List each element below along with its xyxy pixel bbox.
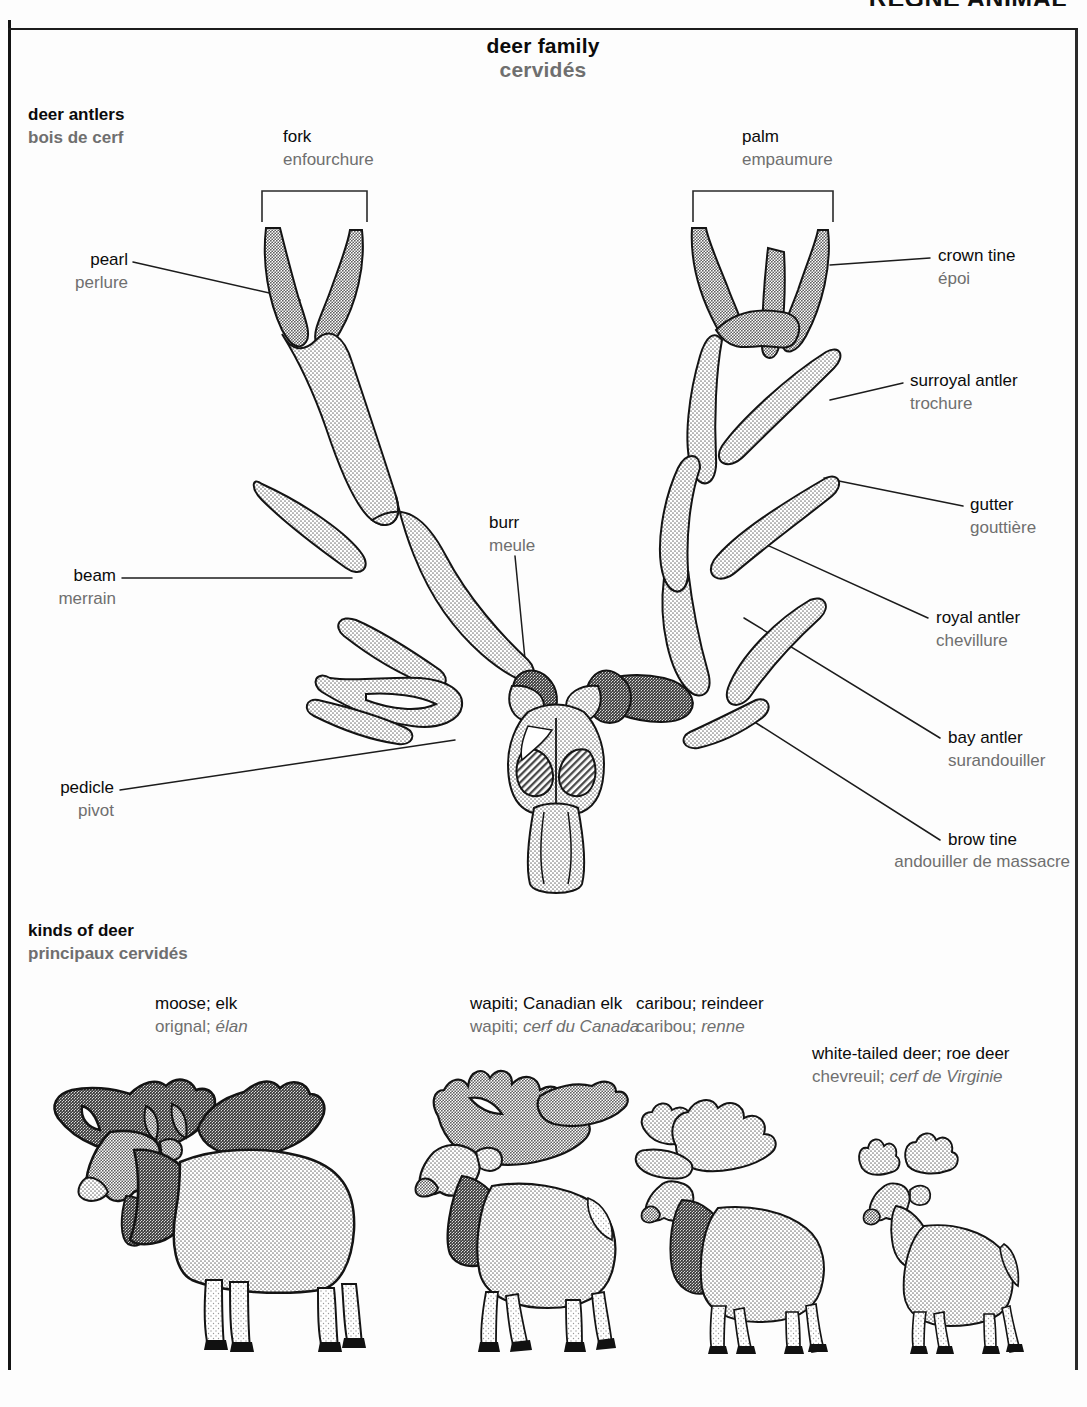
species-caribou-fr: caribou; renne (636, 1016, 764, 1039)
species-moose-fr-italic: élan (215, 1017, 247, 1036)
section-antlers-fr: bois de cerf (28, 127, 124, 150)
label-burr-en: burr (489, 512, 535, 535)
species-whitetailed-label: white-tailed deer; roe deer chevreuil; c… (812, 1043, 1010, 1088)
label-gutter-en: gutter (970, 494, 1036, 517)
running-head: RÈGNE ANIMAL (0, 0, 1079, 6)
label-palm-en: palm (742, 126, 833, 149)
label-surroyal-antler-en: surroyal antler (910, 370, 1018, 393)
species-whitetailed-fr-italic: cerf de Virginie (889, 1067, 1002, 1086)
page-title-fr: cervidés (8, 58, 1078, 82)
label-crown-tine-fr: époi (938, 268, 1015, 291)
label-burr: burr meule (489, 512, 535, 557)
label-surroyal-antler-fr: trochure (910, 393, 1018, 416)
species-whitetailed-fr-plain: chevreuil; (812, 1067, 889, 1086)
label-bay-antler-fr: surandouiller (948, 750, 1045, 773)
species-moose-fr-plain: orignal; (155, 1017, 215, 1036)
label-bay-antler: bay antler surandouiller (948, 727, 1045, 772)
label-surroyal-antler: surroyal antler trochure (910, 370, 1018, 415)
label-fork-fr: enfourchure (283, 149, 374, 172)
label-brow-tine-fr: andouiller de massacre (760, 851, 1070, 874)
label-beam: beam merrain (0, 565, 116, 610)
species-wapiti-fr-italic: cerf du Canada (523, 1017, 639, 1036)
label-pearl: pearl perlure (0, 249, 128, 294)
page-title: deer family cervidés (8, 34, 1078, 82)
species-whitetailed-en: white-tailed deer; roe deer (812, 1043, 1010, 1066)
label-brow-tine: brow tine (948, 829, 1017, 852)
frame-border-right (1075, 28, 1078, 1370)
label-palm: palm empaumure (742, 126, 833, 171)
label-crown-tine: crown tine époi (938, 245, 1015, 290)
label-fork: fork enfourchure (283, 126, 374, 171)
species-moose-en: moose; elk (155, 993, 248, 1016)
label-royal-antler-fr: chevillure (936, 630, 1020, 653)
section-kinds-fr: principaux cervidés (28, 943, 188, 966)
page-frame: deer family cervidés (8, 20, 1078, 1370)
label-beam-en: beam (0, 565, 116, 588)
label-gutter-fr: gouttière (970, 517, 1036, 540)
label-bay-antler-en: bay antler (948, 727, 1045, 750)
label-palm-fr: empaumure (742, 149, 833, 172)
species-wapiti-fr: wapiti; cerf du Canada (470, 1016, 639, 1039)
label-brow-tine-fr-wrap: andouiller de massacre (760, 851, 1070, 874)
species-whitetailed-fr: chevreuil; cerf de Virginie (812, 1066, 1010, 1089)
label-pearl-en: pearl (0, 249, 128, 272)
label-burr-fr: meule (489, 535, 535, 558)
species-caribou-fr-plain: caribou; (636, 1017, 701, 1036)
label-pedicle-en: pedicle (0, 777, 114, 800)
species-moose-fr: orignal; élan (155, 1016, 248, 1039)
species-caribou-label: caribou; reindeer caribou; renne (636, 993, 764, 1038)
species-caribou-fr-italic: renne (701, 1017, 744, 1036)
label-gutter: gutter gouttière (970, 494, 1036, 539)
label-pedicle: pedicle pivot (0, 777, 114, 822)
frame-border-left (8, 20, 11, 1370)
section-antlers-en: deer antlers (28, 104, 124, 127)
label-royal-antler-en: royal antler (936, 607, 1020, 630)
species-wapiti-en: wapiti; Canadian elk (470, 993, 639, 1016)
species-wapiti-fr-plain: wapiti; (470, 1017, 523, 1036)
species-caribou-en: caribou; reindeer (636, 993, 764, 1016)
section-kinds-en: kinds of deer (28, 920, 188, 943)
label-beam-fr: merrain (0, 588, 116, 611)
label-brow-tine-en: brow tine (948, 829, 1017, 852)
label-crown-tine-en: crown tine (938, 245, 1015, 268)
label-pearl-fr: perlure (0, 272, 128, 295)
page-title-en: deer family (8, 34, 1078, 58)
species-moose-label: moose; elk orignal; élan (155, 993, 248, 1038)
label-fork-en: fork (283, 126, 374, 149)
species-wapiti-label: wapiti; Canadian elk wapiti; cerf du Can… (470, 993, 639, 1038)
label-royal-antler: royal antler chevillure (936, 607, 1020, 652)
label-pedicle-fr: pivot (0, 800, 114, 823)
section-antlers: deer antlers bois de cerf (28, 104, 124, 149)
frame-border-top (8, 28, 1078, 30)
section-kinds: kinds of deer principaux cervidés (28, 920, 188, 965)
